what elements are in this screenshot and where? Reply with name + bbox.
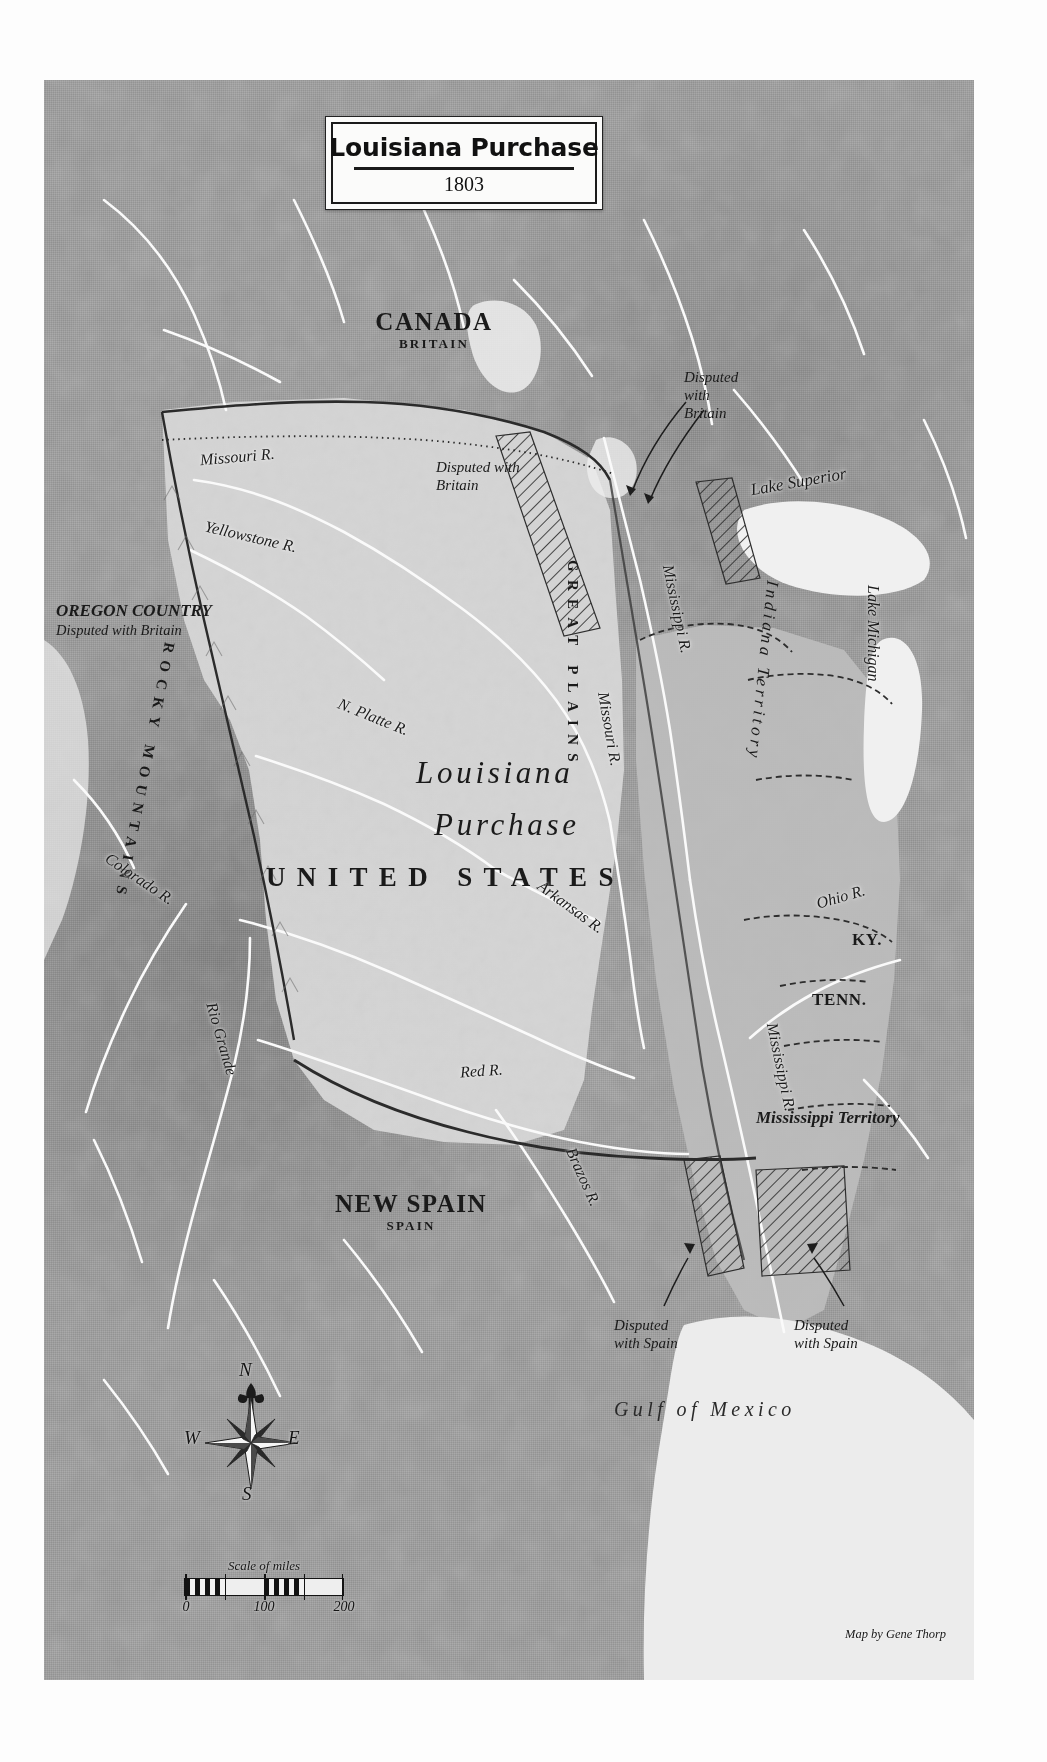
disputed-texas-line2: with Spain (614, 1334, 678, 1352)
scale-tick-0 (185, 1574, 187, 1600)
scale-number-100: 100 (254, 1599, 275, 1615)
label-united-states: UNITED STATES (266, 862, 625, 892)
title-cartouche: Louisiana Purchase 1803 (325, 116, 603, 210)
label-state-tenn: TENN. (812, 990, 866, 1009)
disputed-texas-line1: Disputed (614, 1316, 678, 1334)
annotation-disputed-britain-lakes: Disputed with Britain (684, 368, 738, 422)
territory-label-oregon-country: OREGON COUNTRY Disputed with Britain (56, 602, 186, 639)
label-gulf-of-mexico: Gulf of Mexico (614, 1398, 796, 1420)
country-label-new-spain: NEW SPAIN SPAIN (316, 1190, 506, 1234)
label-louisiana: Louisiana (416, 756, 574, 791)
new-spain-name: NEW SPAIN (335, 1190, 487, 1217)
disputed-lakes-line3: Britain (684, 404, 738, 422)
annotation-disputed-spain-texas: Disputed with Spain (614, 1316, 678, 1352)
label-purchase: Purchase (434, 808, 580, 843)
map-credit: Map by Gene Thorp (845, 1627, 946, 1642)
new-spain-sovereign: SPAIN (316, 1219, 506, 1234)
oregon-country-note: Disputed with Britain (56, 622, 186, 638)
river-label-red: Red R. (459, 1061, 503, 1082)
label-lake-michigan: Lake Michigan (864, 585, 882, 681)
compass-label-west: W (184, 1427, 200, 1449)
compass-label-east: E (288, 1427, 300, 1449)
scale-numbers: 0 100 200 (184, 1599, 344, 1617)
disputed-lakes-line1: Disputed (684, 368, 738, 386)
label-great-plains: GREAT PLAINS (564, 560, 581, 770)
label-state-ky: KY. (852, 930, 882, 949)
annotation-disputed-spain-florida: Disputed with Spain (794, 1316, 858, 1352)
disputed-florida-line1: Disputed (794, 1316, 858, 1334)
scale-seg-4 (304, 1579, 344, 1595)
scale-caption: Scale of miles (184, 1558, 344, 1574)
map-page: Louisiana Purchase 1803 CANADA BRITAIN N… (0, 0, 1047, 1762)
scale-bar-group: Scale of miles 0 100 200 (184, 1558, 344, 1617)
scale-bar (184, 1578, 344, 1596)
scale-tick-150 (304, 1574, 306, 1600)
scale-tick-50 (225, 1574, 227, 1600)
canada-sovereign: BRITAIN (344, 337, 524, 352)
scale-number-0: 0 (183, 1599, 190, 1615)
annotation-disputed-britain-north: Disputed with Britain (436, 458, 520, 494)
map-year: 1803 (326, 173, 602, 196)
scale-seg-2 (225, 1579, 265, 1595)
oregon-country-name: OREGON COUNTRY (56, 602, 186, 620)
disputed-north-line2: Britain (436, 476, 520, 494)
disputed-lakes-line2: with (684, 386, 738, 404)
compass-label-north: N (239, 1359, 252, 1381)
compass-label-south: S (242, 1483, 252, 1505)
cartouche-rule (354, 167, 574, 170)
disputed-florida-line2: with Spain (794, 1334, 858, 1352)
compass-rose: N W E S (196, 1365, 306, 1515)
scale-seg-1 (185, 1579, 225, 1595)
canada-name: CANADA (375, 308, 492, 335)
scale-tick-200 (342, 1574, 344, 1600)
map-plate: Louisiana Purchase 1803 CANADA BRITAIN N… (44, 80, 974, 1680)
scale-number-200: 200 (334, 1599, 355, 1615)
country-label-canada: CANADA BRITAIN (344, 308, 524, 352)
map-title: Louisiana Purchase (326, 133, 602, 162)
label-mississippi-territory: Mississippi Territory (756, 1108, 886, 1127)
disputed-north-line1: Disputed with (436, 458, 520, 476)
scale-seg-3 (264, 1579, 304, 1595)
scale-tick-100 (264, 1574, 266, 1600)
